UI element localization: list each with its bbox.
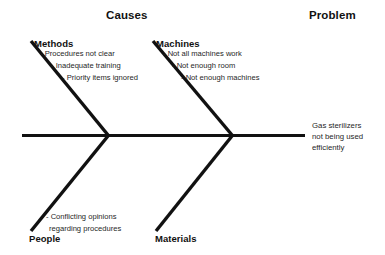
branch-label-materials: Materials: [155, 233, 197, 244]
column-header-causes: Causes: [106, 9, 148, 23]
cause-item: - Not enough room: [172, 60, 260, 72]
cause-item: - Not all machines work: [163, 48, 260, 60]
cause-item: - Conflicting opinions: [46, 211, 121, 223]
problem-statement-line: Gas sterilizers: [312, 120, 363, 131]
cause-item: - Inadequate training: [51, 60, 138, 72]
cause-item: regarding procedures: [49, 223, 121, 235]
problem-statement-line: not being used: [312, 131, 363, 142]
column-header-problem: Problem: [309, 9, 356, 23]
problem-statement-line: efficiently: [312, 142, 363, 153]
fishbone-diagram: Causes Problem Methods Machines People M…: [0, 0, 385, 255]
cause-item: - Priority items ignored: [62, 72, 138, 84]
cause-list-machines: - Not all machines work - Not enough roo…: [163, 48, 260, 83]
branch-label-people: People: [29, 233, 60, 244]
cause-item: - Not enough machines: [181, 72, 260, 84]
problem-statement: Gas sterilizers not being used efficient…: [312, 120, 363, 153]
cause-item: - Procedures not clear: [40, 48, 138, 60]
branch-line-materials: [156, 136, 232, 231]
cause-list-people: - Conflicting opinions regarding procedu…: [46, 211, 121, 235]
cause-list-methods: - Procedures not clear - Inadequate trai…: [40, 48, 138, 83]
